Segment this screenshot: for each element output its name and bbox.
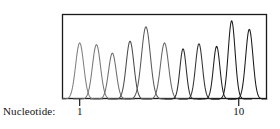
axis-caption: Nucleotide:: [3, 105, 55, 117]
axis-ticks: [80, 99, 239, 106]
x-tick-label-10: 10: [233, 105, 244, 117]
sequencing-trace-figure: Nucleotide: 1 10: [0, 0, 280, 129]
x-tick-label-1: 1: [77, 105, 83, 117]
